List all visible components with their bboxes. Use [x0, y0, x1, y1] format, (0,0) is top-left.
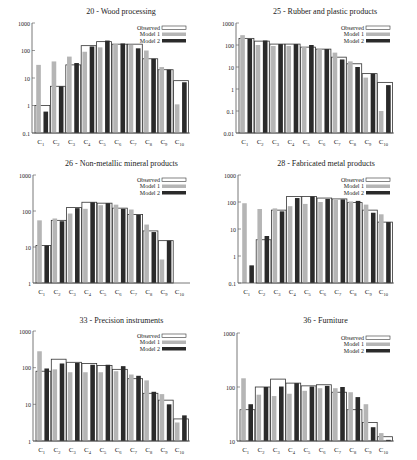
bar-model-1	[302, 391, 307, 441]
bar-model-1	[364, 404, 369, 441]
bar-model-1	[287, 394, 292, 441]
legend-label: Model 1	[344, 341, 364, 347]
y-tick-label: 10	[229, 439, 235, 445]
x-tick-label: C2	[257, 446, 264, 455]
bar-model-1	[241, 378, 246, 441]
legend-swatch	[366, 349, 390, 353]
bar-model-1	[318, 388, 323, 441]
bar-model-2	[264, 387, 269, 441]
legend-swatch	[366, 336, 390, 340]
bar-model-2	[325, 386, 330, 441]
bar-model-1	[257, 395, 262, 441]
bar-chart: 36 - FurnitureC1C2C3C4C5C6C7C8C9C1010100…	[0, 0, 417, 460]
x-tick-label: C10	[379, 446, 389, 455]
x-tick-label: C5	[303, 446, 311, 455]
bar-model-2	[340, 387, 345, 441]
y-tick-label: 1000	[223, 331, 235, 337]
x-tick-label: C1	[242, 446, 249, 455]
bar-model-2	[310, 387, 315, 441]
x-tick-label: C6	[319, 446, 327, 455]
bar-model-1	[379, 433, 384, 441]
bar-model-1	[272, 396, 277, 441]
bar-model-2	[248, 404, 253, 441]
x-tick-label: C3	[273, 446, 281, 455]
x-tick-label: C9	[365, 446, 373, 455]
chart-title: 36 - Furniture	[303, 316, 348, 325]
bar-model-2	[371, 427, 376, 441]
x-tick-label: C8	[349, 446, 357, 455]
panel-furniture: 36 - FurnitureC1C2C3C4C5C6C7C8C9C1010100…	[0, 0, 417, 460]
bar-model-2	[279, 387, 284, 441]
y-tick-label: 100	[226, 385, 235, 391]
bar-model-1	[348, 392, 353, 441]
legend-swatch	[366, 343, 390, 347]
bar-model-2	[356, 397, 361, 441]
legend-label: Model 2	[344, 348, 364, 354]
legend-label: Observed	[341, 335, 364, 341]
bar-model-2	[294, 383, 299, 441]
x-tick-label: C7	[334, 446, 342, 455]
x-tick-label: C4	[288, 446, 296, 455]
bar-model-1	[333, 388, 338, 441]
